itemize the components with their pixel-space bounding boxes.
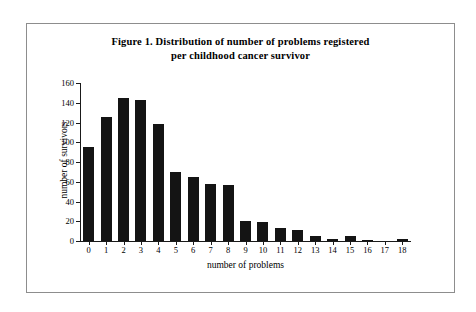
bar — [135, 100, 146, 241]
x-axis-tick-label: 0 — [87, 246, 91, 255]
x-axis-title: number of problems — [80, 260, 411, 270]
x-axis-tick-label: 18 — [398, 246, 407, 255]
y-axis-tick — [76, 202, 80, 203]
y-axis-tick — [76, 182, 80, 183]
x-axis-tick-label: 5 — [174, 246, 178, 255]
bar — [223, 185, 234, 241]
x-axis-tick-label: 14 — [328, 246, 337, 255]
bar — [170, 172, 181, 241]
x-axis-tick-label: 16 — [363, 246, 372, 255]
x-axis-tick-label: 17 — [381, 246, 390, 255]
x-axis-tick-label: 15 — [346, 246, 355, 255]
bar — [327, 239, 338, 241]
y-axis-tick — [76, 103, 80, 104]
y-axis-tick — [76, 241, 80, 242]
x-axis-tick-label: 1 — [104, 246, 108, 255]
figure-title: Figure 1. Distribution of number of prob… — [27, 35, 454, 62]
figure-title-line-2: per childhood cancer survivor — [27, 49, 454, 63]
bar — [188, 177, 199, 241]
figure-title-line-1: Figure 1. Distribution of number of prob… — [27, 35, 454, 49]
x-axis-tick-label: 7 — [209, 246, 213, 255]
y-axis-tick-label: 0 — [70, 237, 74, 246]
x-axis-tick-label: 3 — [139, 246, 143, 255]
y-axis-tick-label: 160 — [61, 79, 74, 88]
bar — [118, 98, 129, 241]
x-axis-tick-label: 9 — [243, 246, 247, 255]
bar — [205, 184, 216, 241]
y-axis-tick — [76, 123, 80, 124]
x-axis-tick-label: 13 — [311, 246, 320, 255]
bar — [101, 117, 112, 241]
bar — [362, 240, 373, 241]
x-axis-tick-label: 12 — [294, 246, 303, 255]
x-axis-tick-label: 6 — [191, 246, 195, 255]
y-axis-tick — [76, 83, 80, 84]
bar — [153, 124, 164, 242]
bar — [310, 236, 321, 241]
x-axis-tick-label: 4 — [156, 246, 160, 255]
bar — [257, 222, 268, 241]
x-axis-tick-label: 8 — [226, 246, 230, 255]
bar — [275, 228, 286, 241]
y-axis-title: number of survivors — [59, 100, 69, 220]
figure-frame: Figure 1. Distribution of number of prob… — [26, 23, 455, 293]
y-axis-line — [80, 83, 81, 241]
bar — [292, 230, 303, 241]
plot-area: 020406080100120140160 012345678910111213… — [80, 83, 411, 241]
y-axis-tick — [76, 221, 80, 222]
x-axis-tick-label: 11 — [276, 246, 284, 255]
y-axis-tick — [76, 162, 80, 163]
x-axis-tick-label: 2 — [121, 246, 125, 255]
y-axis-tick — [76, 142, 80, 143]
x-axis-tick-label: 10 — [259, 246, 268, 255]
bar — [240, 221, 251, 241]
bar — [397, 239, 408, 241]
bar — [345, 236, 356, 241]
bar — [83, 147, 94, 241]
